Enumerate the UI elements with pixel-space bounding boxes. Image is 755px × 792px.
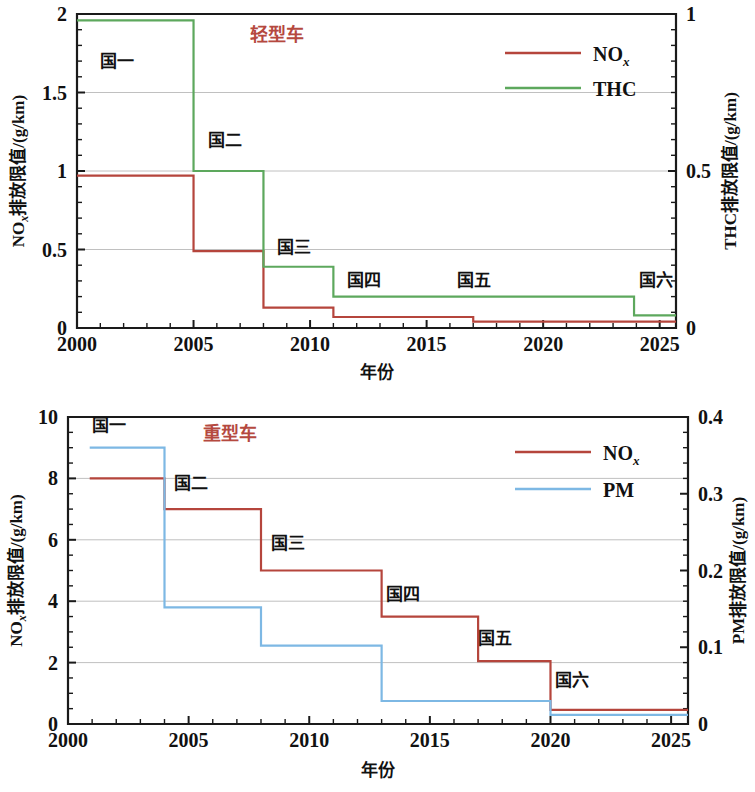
x-tick-label: 2005 (174, 333, 214, 355)
y-right-tick-label: 0.4 (698, 406, 723, 428)
y-right-tick-label: 1 (686, 3, 696, 25)
x-tick-label: 2020 (530, 729, 570, 751)
y-left-tick-label: 2 (57, 3, 67, 25)
heavy-duty-chart-panel: 200020052010201520202025024681000.10.20.… (0, 400, 755, 792)
x-tick-label: 2025 (640, 333, 680, 355)
y-left-tick-label: 4 (48, 590, 58, 612)
stage-label-5: 国五 (478, 629, 512, 648)
y-left-tick-label: 8 (48, 467, 58, 489)
y-left-tick-label: 0 (48, 713, 58, 735)
series-line-nox (77, 176, 676, 322)
y-left-tick-label: 0 (57, 317, 67, 339)
stage-label-3: 国三 (271, 534, 305, 553)
y-left-tick-label: 1.5 (42, 82, 67, 104)
legend-label-nox: NOx (593, 43, 630, 69)
x-tick-label: 2020 (523, 333, 563, 355)
y-left-tick-label: 1 (57, 160, 67, 182)
x-tick-label: 2025 (651, 729, 691, 751)
light-duty-chart-panel: 20002005201020152020202500.511.5200.51轻型… (0, 0, 755, 400)
y-right-tick-label: 0 (698, 713, 708, 735)
y-right-axis-title: THC排放限值/(g/km) (720, 92, 740, 250)
stage-label-6: 国六 (555, 670, 589, 690)
stage-label-1: 国一 (92, 416, 126, 435)
panel-title: 轻型车 (250, 24, 304, 45)
stage-label-4: 国四 (386, 585, 420, 604)
y-right-tick-label: 0.1 (698, 636, 723, 658)
y-left-tick-label: 2 (48, 652, 58, 674)
y-left-axis-title: NOx排放限值/(g/km) (8, 95, 31, 247)
y-right-tick-label: 0.5 (686, 160, 711, 182)
x-tick-label: 2010 (289, 729, 329, 751)
x-axis-title: 年份 (361, 760, 396, 780)
y-right-tick-label: 0.2 (698, 560, 723, 582)
x-tick-label: 2015 (407, 333, 447, 355)
x-axis-title: 年份 (360, 362, 395, 382)
stage-label-3: 国三 (277, 238, 311, 257)
legend-label-pm: PM (603, 479, 634, 501)
heavy-duty-chart-svg: 200020052010201520202025024681000.10.20.… (0, 400, 755, 792)
legend-label-thc: THC (593, 78, 636, 100)
stage-label-4: 国四 (347, 271, 381, 290)
stage-label-1: 国一 (100, 52, 134, 71)
stage-label-5: 国五 (457, 271, 491, 290)
x-tick-label: 2005 (169, 729, 209, 751)
y-left-tick-label: 0.5 (42, 239, 67, 261)
y-right-tick-label: 0 (686, 317, 696, 339)
x-tick-label: 2015 (410, 729, 450, 751)
y-left-axis-title: NOx排放限值/(g/km) (6, 494, 29, 646)
y-right-tick-label: 0.3 (698, 483, 723, 505)
light-duty-chart-svg: 20002005201020152020202500.511.5200.51轻型… (0, 0, 755, 400)
y-right-axis-title: PM排放限值/(g/km) (728, 497, 748, 644)
panel-title: 重型车 (203, 423, 257, 444)
y-left-tick-label: 10 (38, 406, 58, 428)
y-left-tick-label: 6 (48, 529, 58, 551)
stage-label-2: 国二 (208, 131, 242, 150)
stage-label-6: 国六 (639, 270, 673, 290)
stage-label-2: 国二 (174, 474, 208, 493)
x-tick-label: 2010 (290, 333, 330, 355)
legend-label-nox: NOx (603, 442, 640, 468)
